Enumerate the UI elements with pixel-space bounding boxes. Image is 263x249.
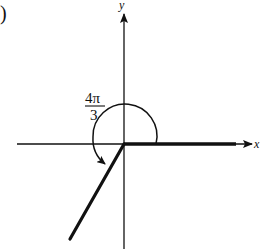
terminal-side bbox=[70, 144, 124, 239]
angle-label-numerator: 4π bbox=[85, 90, 101, 106]
angle-diagram: y x 4π 3 ) bbox=[0, 0, 263, 249]
x-axis-label: x bbox=[253, 137, 260, 151]
part-label: ) bbox=[0, 2, 7, 25]
diagram-svg: y x 4π 3 ) bbox=[0, 0, 263, 249]
angle-label-denominator: 3 bbox=[90, 107, 98, 123]
angle-arc-arrow-icon bbox=[93, 104, 157, 164]
y-axis-label: y bbox=[118, 0, 125, 12]
